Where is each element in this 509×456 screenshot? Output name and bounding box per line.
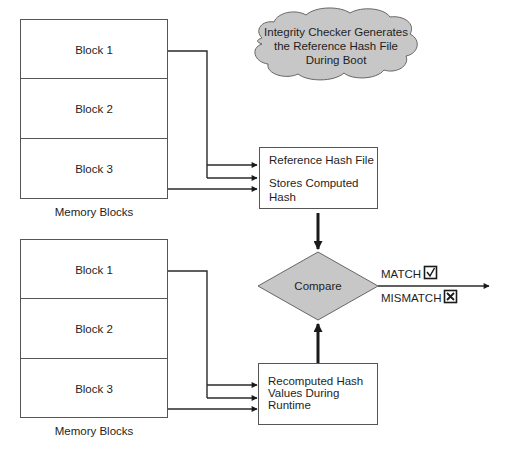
reference-hash-line-1: Stores Computed xyxy=(269,177,359,189)
reference-hash-line-2: Hash xyxy=(269,191,296,203)
top-block-3-label: Block 3 xyxy=(75,163,113,175)
integrity-checker-cloud: Integrity Checker Generates the Referenc… xyxy=(255,8,417,80)
bottom-block-1-label: Block 1 xyxy=(75,264,113,276)
top-memory-blocks: Block 1 Block 2 Block 3 Memory Blocks xyxy=(21,20,168,219)
bottom-memory-caption: Memory Blocks xyxy=(55,425,134,437)
match-label: MATCH xyxy=(381,268,421,280)
checkbox-checked-icon xyxy=(425,267,437,279)
recomputed-line-1: Recomputed Hash xyxy=(268,375,363,387)
match-outcome: MATCH xyxy=(381,267,437,281)
top-block-1-label: Block 1 xyxy=(75,44,113,56)
reference-hash-box: Reference Hash File Stores Computed Hash xyxy=(260,148,378,209)
cloud-line-1: Integrity Checker Generates xyxy=(264,26,408,38)
top-connectors xyxy=(168,51,257,189)
recomputed-line-2: Values During xyxy=(268,387,339,399)
compare-label: Compare xyxy=(294,280,341,292)
bottom-block-2-label: Block 2 xyxy=(75,323,113,335)
checkbox-x-icon xyxy=(445,291,457,303)
bottom-block1-connector xyxy=(168,271,207,398)
recomputed-hash-box: Recomputed Hash Values During Runtime xyxy=(259,364,378,425)
compare-decision: Compare xyxy=(258,252,378,320)
top-block-2-label: Block 2 xyxy=(75,103,113,115)
hash-integrity-diagram: Block 1 Block 2 Block 3 Memory Blocks In… xyxy=(0,0,509,456)
bottom-block-3-label: Block 3 xyxy=(75,383,113,395)
recomputed-line-3: Runtime xyxy=(268,399,311,411)
cloud-line-2: the Reference Hash File xyxy=(274,40,398,52)
reference-hash-title: Reference Hash File xyxy=(269,154,374,166)
mismatch-label: MISMATCH xyxy=(381,292,441,304)
bottom-memory-blocks: Block 1 Block 2 Block 3 Memory Blocks xyxy=(21,240,168,438)
bottom-connectors xyxy=(168,271,257,409)
mismatch-outcome: MISMATCH xyxy=(381,291,457,305)
top-memory-caption: Memory Blocks xyxy=(55,206,134,218)
block1-connector xyxy=(168,51,207,178)
cloud-line-3: During Boot xyxy=(306,54,368,66)
